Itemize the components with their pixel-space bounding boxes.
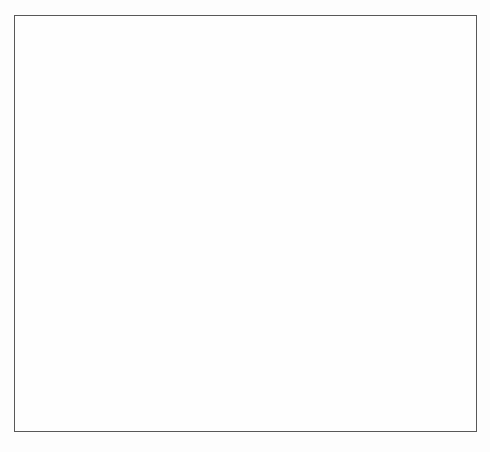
figure-root: BM Thymus PB HSC HSC MPP CMP Myeloid MLP… [0,0,490,452]
figure-border [14,15,477,432]
